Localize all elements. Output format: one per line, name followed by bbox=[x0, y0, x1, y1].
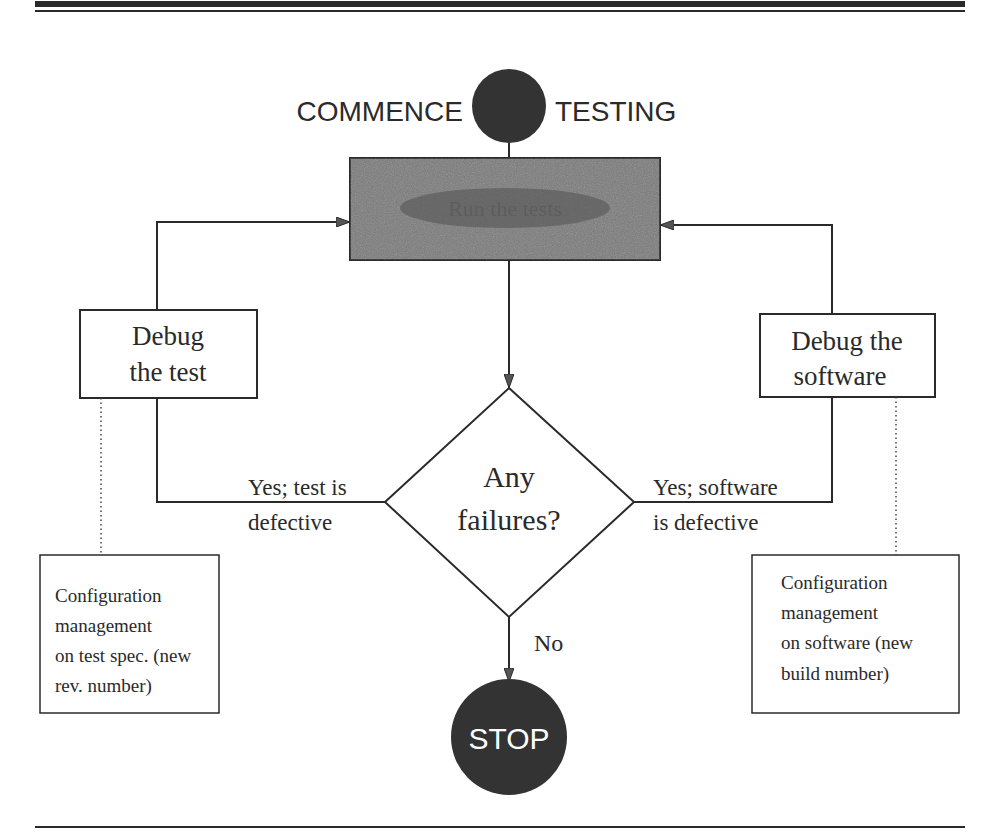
start-label-left: COMMENCE bbox=[297, 96, 463, 127]
connector-debug-test-to-process bbox=[157, 222, 349, 310]
right-edge-line2: is defective bbox=[653, 510, 758, 535]
connector-debug-software-to-process bbox=[661, 225, 832, 314]
no-edge-label: No bbox=[534, 630, 563, 656]
top-rule-thin bbox=[35, 10, 965, 12]
top-rule-thick bbox=[35, 1, 965, 7]
testing-flowchart: COMMENCE TESTING Run the tests Any failu… bbox=[0, 0, 999, 837]
right-note-line3: on software (new bbox=[781, 632, 913, 654]
bottom-rule bbox=[35, 826, 965, 828]
left-note-line2: management bbox=[55, 615, 153, 636]
left-note-line4: rev. number) bbox=[55, 675, 152, 697]
right-note-line4: build number) bbox=[781, 663, 889, 685]
debug-software-line1: Debug the bbox=[791, 326, 903, 356]
right-edge-line1: Yes; software bbox=[653, 475, 778, 500]
start-label-right: TESTING bbox=[555, 96, 676, 127]
debug-software-line2: software bbox=[794, 361, 887, 391]
left-edge-line2: defective bbox=[248, 510, 332, 535]
right-note-line2: management bbox=[781, 602, 879, 623]
debug-test-line1: Debug bbox=[132, 321, 204, 351]
debug-test-line2: the test bbox=[129, 357, 207, 387]
process-label: Run the tests bbox=[448, 196, 562, 221]
left-note-line3: on test spec. (new bbox=[55, 645, 191, 667]
stop-label: STOP bbox=[468, 722, 549, 755]
decision-line1: Any bbox=[483, 460, 535, 493]
decision-line2: failures? bbox=[457, 503, 560, 536]
right-note-line1: Configuration bbox=[781, 572, 888, 593]
left-note-line1: Configuration bbox=[55, 585, 162, 606]
left-edge-line1: Yes; test is bbox=[248, 475, 347, 500]
start-terminal bbox=[472, 69, 546, 143]
